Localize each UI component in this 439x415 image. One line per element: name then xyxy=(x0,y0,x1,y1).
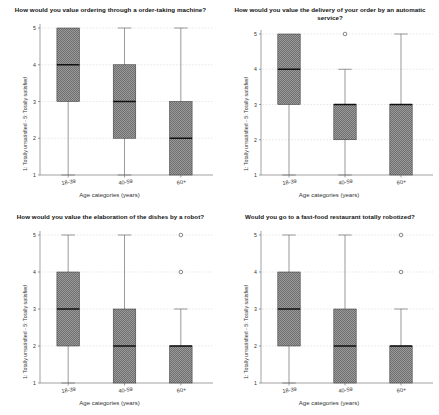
boxplot-figure-grid: How would you value ordering through a o… xyxy=(0,0,439,415)
panel-2: How would you value the delivery of your… xyxy=(219,0,439,207)
box-rect xyxy=(334,105,356,140)
y-tick-label: 5 xyxy=(245,232,257,238)
panel-3-plot: 18-3940-5960+123451: Totally unsatisfied… xyxy=(0,207,219,415)
y-axis-label: 1: Totally unsatisfied - 5: Totally sati… xyxy=(22,285,28,379)
box-group xyxy=(57,235,80,383)
box-group xyxy=(113,235,136,383)
panel-1: How would you value ordering through a o… xyxy=(0,0,219,207)
panel-4-plot: 18-3940-5960+123451: Totally unsatisfied… xyxy=(219,207,439,415)
y-tick-label: 1 xyxy=(24,172,36,178)
box-group xyxy=(334,235,356,383)
box-rect xyxy=(390,105,412,176)
panel-3: How would you value the elaboration of t… xyxy=(0,207,219,415)
y-tick-label: 4 xyxy=(24,269,36,275)
box-group xyxy=(334,32,356,175)
x-axis-label: Age categories (years) xyxy=(0,400,219,406)
x-axis-label: Age categories (years) xyxy=(219,192,439,198)
panel-1-plot: 18-3940-5960+123451: Totally unsatisfied… xyxy=(0,0,219,207)
box-group xyxy=(278,34,300,175)
y-tick-label: 4 xyxy=(245,66,257,72)
panel-4: Would you go to a fast-food restaurant t… xyxy=(219,207,439,415)
y-tick-label: 5 xyxy=(245,31,257,37)
box-group xyxy=(57,28,80,175)
panel-2-plot: 18-3940-5960+123451: Totally unsatisfied… xyxy=(219,0,439,207)
y-tick-label: 1 xyxy=(245,380,257,386)
x-axis-label: Age categories (years) xyxy=(219,400,439,406)
y-axis-label: 1: Totally unsatisfied - 5: Totally sati… xyxy=(22,77,28,171)
x-axis-label: Age categories (years) xyxy=(0,192,219,198)
box-group xyxy=(390,233,412,383)
box-group xyxy=(170,233,193,383)
y-tick-label: 1 xyxy=(245,172,257,178)
box-group xyxy=(170,28,193,175)
y-axis-label: 1: Totally unsatisfied - 5: Totally sati… xyxy=(243,285,249,379)
box-group xyxy=(113,28,136,175)
y-tick-label: 5 xyxy=(24,232,36,238)
box-rect xyxy=(170,346,193,383)
box-group xyxy=(278,235,300,383)
y-tick-label: 5 xyxy=(24,25,36,31)
box-group xyxy=(390,34,412,175)
y-tick-label: 1 xyxy=(24,380,36,386)
y-tick-label: 4 xyxy=(24,62,36,68)
box-rect xyxy=(390,346,412,383)
y-axis-label: 1: Totally unsatisfied - 5: Totally sati… xyxy=(243,77,249,171)
y-tick-label: 4 xyxy=(245,269,257,275)
